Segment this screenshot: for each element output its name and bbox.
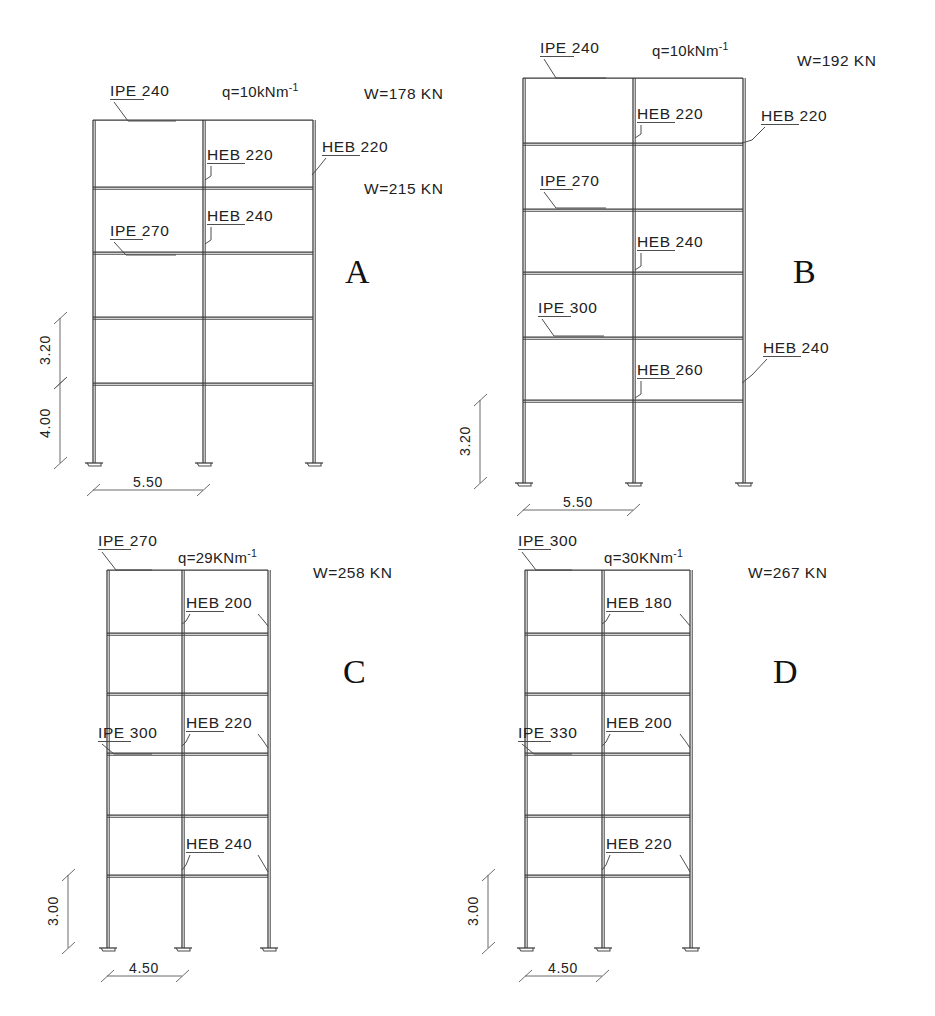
leader-line [542,319,604,336]
section-label-text: HEB 200 [606,714,672,731]
leader-line-2 [258,614,268,626]
weight-label-1: W=192 KN [797,52,876,69]
section-label-2: HEB 180 [602,594,690,626]
section-label-text: IPE 270 [110,222,169,239]
dimension-vertical-1: 3.20 [457,394,487,489]
section-label-text: HEB 240 [637,233,703,250]
leader-line-2 [680,614,690,626]
dimension-horizontal-1: 5.50 [517,494,640,516]
weight-label-1: W=258 KN [313,564,392,581]
section-label-text: HEB 220 [322,138,388,155]
section-label-text: HEB 260 [637,361,703,378]
section-label-2: HEB 220 [205,146,273,180]
leader-line [205,227,211,244]
load-label-text: q=10kNm-1 [222,81,299,100]
section-label-6: IPE 300 [538,299,604,336]
section-label-8: HEB 240 [742,339,829,383]
section-label-text: HEB 220 [637,105,703,122]
leader-line [602,855,610,870]
section-label-text: IPE 300 [98,724,157,741]
section-label-1: IPE 240 [540,39,606,78]
dimension-value: 4.50 [129,960,159,976]
leader-line [114,102,176,121]
frame-A: q=10kNm-1W=178 KNW=215 KNIPE 240HEB 220H… [37,81,443,496]
section-label-3: HEB 200 [602,714,690,748]
dimension-value: 4.00 [37,408,53,438]
dimension-value: 3.00 [45,896,61,926]
section-label-text: IPE 270 [540,172,599,189]
dimension-vertical-1: 3.00 [465,869,495,954]
frame-letter-D: D [773,653,798,690]
section-label-text: HEB 220 [207,146,273,163]
section-label-text: HEB 220 [761,107,827,124]
leader-line [522,552,572,570]
dimension-tick-2 [482,942,495,954]
dimension-tick-1 [54,377,67,389]
section-label-text: HEB 220 [606,835,672,852]
drawing-sheet: q=10kNm-1W=178 KNW=215 KNIPE 240HEB 220H… [0,0,935,1016]
dimension-tick-1 [54,312,67,324]
leader-line [182,734,190,746]
section-label-7: HEB 260 [635,361,703,398]
section-label-text: IPE 270 [98,532,157,549]
dimension-value: 4.50 [548,960,578,976]
dimension-horizontal-1: 4.50 [101,960,189,982]
section-label-5: IPE 270 [110,222,176,255]
section-label-text: HEB 200 [186,594,252,611]
section-label-text: IPE 330 [518,724,577,741]
leader-line [635,125,641,138]
frame-letter-A: A [345,253,370,290]
frame-D: q=30KNm-1W=267 KNIPE 300HEB 180HEB 200IP… [465,532,827,982]
frame-letter-C: C [343,653,366,690]
dimension-vertical-2: 4.00 [37,377,67,469]
leader-line [742,359,767,383]
dimension-tick-2 [474,477,487,489]
section-label-3: HEB 220 [742,107,827,143]
dimension-vertical-1: 3.20 [37,312,67,389]
leader-line [182,614,190,624]
dimension-value: 5.50 [563,494,593,510]
section-label-text: HEB 240 [207,207,273,224]
section-label-text: IPE 240 [110,82,169,99]
dimension-horizontal-1: 4.50 [519,960,609,982]
section-label-1: IPE 270 [98,532,157,570]
load-label-C: q=29KNm-1 [178,547,257,566]
weight-label-1: W=267 KN [748,564,827,581]
weight-label-1: W=178 KN [364,85,443,102]
section-label-5: HEB 240 [635,233,703,270]
leader-line [602,734,610,746]
leader-line [544,192,606,208]
section-label-3: HEB 220 [312,138,388,175]
load-label-text: q=29KNm-1 [178,547,257,566]
dimension-value: 3.20 [37,335,53,365]
dimension-value: 3.20 [457,426,473,456]
section-label-text: HEB 240 [763,339,829,356]
dimension-tick-1 [474,394,487,406]
leader-line [102,552,152,570]
section-label-4: HEB 240 [205,207,273,244]
load-label-A: q=10kNm-1 [222,81,299,100]
load-label-text: q=10kNm-1 [652,40,729,59]
leader-line [114,242,176,255]
leader-line [544,59,606,78]
section-label-3: HEB 220 [182,714,268,748]
section-label-text: IPE 240 [540,39,599,56]
dimension-tick-2 [62,942,75,954]
section-label-2: HEB 220 [635,105,703,138]
dimension-tick-1 [482,869,495,881]
dimension-value: 5.50 [133,474,163,490]
dimension-value: 3.00 [465,896,481,926]
load-label-text: q=30KNm-1 [604,547,683,566]
section-label-1: IPE 300 [518,532,577,570]
section-label-5: HEB 240 [182,835,268,872]
dimension-vertical-1: 3.00 [45,869,75,954]
leader-line [635,253,641,270]
load-label-B: q=10kNm-1 [652,40,729,59]
frame-letter-B: B [793,253,816,290]
section-label-1: IPE 240 [110,82,176,121]
leader-line-2 [680,855,690,872]
section-label-4: IPE 270 [540,172,606,208]
structural-frames-drawing: q=10kNm-1W=178 KNW=215 KNIPE 240HEB 220H… [0,0,935,1016]
leader-line [312,158,326,175]
section-label-text: HEB 220 [186,714,252,731]
